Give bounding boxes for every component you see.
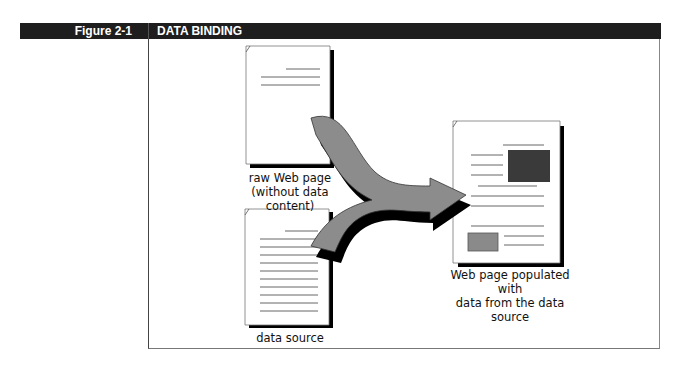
raw-page-caption-line2: (without data content) xyxy=(230,185,350,213)
populated-page-caption-line1: Web page populated with xyxy=(440,268,580,296)
data-source-document xyxy=(245,209,333,328)
data-source-caption: data source xyxy=(230,331,350,345)
populated-web-page-document xyxy=(453,121,564,267)
raw-web-page-document xyxy=(246,46,334,168)
populated-page-caption: Web page populated with data from the da… xyxy=(440,268,580,324)
data-source-caption-line1: data source xyxy=(230,331,350,345)
content-block-small xyxy=(468,233,498,251)
raw-page-caption-line1: raw Web page xyxy=(230,171,350,185)
populated-page-caption-line2: data from the data source xyxy=(440,296,580,324)
raw-page-caption: raw Web page (without data content) xyxy=(230,171,350,213)
content-block-large xyxy=(508,150,550,182)
